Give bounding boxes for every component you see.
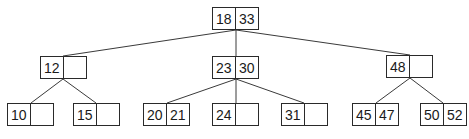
tree-node-n20: 2021: [143, 103, 190, 126]
node-key-slot: [31, 104, 54, 125]
tree-node-n48: 48: [386, 55, 433, 78]
edge-n48-n45: [376, 78, 410, 103]
edge-root-n48: [236, 30, 410, 55]
edge-n12-n15: [63, 79, 96, 103]
tree-diagram: 18331223304810152021243145475052: [0, 0, 469, 139]
tree-node-n10: 10: [7, 103, 54, 126]
node-key-slot: [97, 104, 120, 125]
edge-n23-n31: [236, 79, 304, 103]
node-key-slot: 18: [213, 8, 236, 29]
tree-node-n12: 12: [40, 56, 87, 79]
tree-node-n31: 31: [281, 103, 328, 126]
tree-node-n45: 4547: [352, 103, 399, 126]
edge-n23-n20: [167, 79, 236, 103]
node-key-slot: 52: [444, 104, 467, 125]
node-key-slot: 33: [236, 8, 259, 29]
node-key-slot: [64, 57, 87, 78]
node-key-slot: 30: [236, 57, 259, 78]
node-key-slot: 23: [213, 57, 236, 78]
node-key-slot: 50: [421, 104, 444, 125]
tree-node-root: 1833: [212, 7, 259, 30]
node-key-slot: 10: [8, 104, 31, 125]
node-key-slot: 48: [387, 56, 410, 77]
edge-n48-n50: [410, 78, 443, 103]
node-key-slot: 21: [167, 104, 190, 125]
node-key-slot: [410, 56, 433, 77]
node-key-slot: [305, 104, 328, 125]
node-key-slot: 45: [353, 104, 376, 125]
edge-n12-n10: [31, 79, 63, 103]
tree-node-n50: 5052: [420, 103, 467, 126]
edge-root-n12: [63, 30, 236, 56]
node-key-slot: 15: [74, 104, 97, 125]
node-key-slot: 47: [376, 104, 399, 125]
node-key-slot: 31: [282, 104, 305, 125]
node-key-slot: 20: [144, 104, 167, 125]
node-key-slot: 24: [213, 104, 236, 125]
tree-node-n23: 2330: [212, 56, 259, 79]
node-key-slot: [236, 104, 259, 125]
tree-node-n24: 24: [212, 103, 259, 126]
node-key-slot: 12: [41, 57, 64, 78]
tree-node-n15: 15: [73, 103, 120, 126]
